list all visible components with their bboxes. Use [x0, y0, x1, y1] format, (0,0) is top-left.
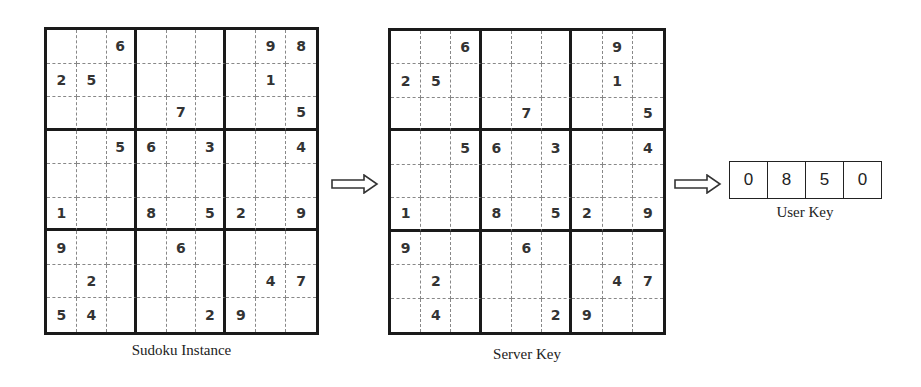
sudoku-cell: [421, 165, 451, 198]
sudoku-cell: [603, 232, 633, 265]
sudoku-cell: [196, 164, 226, 198]
sudoku-cell: 9: [47, 231, 77, 265]
sudoku-cell: 5: [421, 64, 451, 97]
sudoku-cell: [167, 30, 197, 64]
sudoku-cell: [451, 165, 481, 198]
sudoku-cell: [512, 165, 542, 198]
sudoku-cell: [421, 198, 451, 231]
sudoku-cell: 8: [286, 30, 316, 64]
sudoku-cell: 4: [603, 265, 633, 298]
sudoku-cell: [286, 231, 316, 265]
sudoku-cell: [226, 97, 256, 131]
sudoku-cell: [47, 30, 77, 64]
sudoku-cell: 2: [542, 299, 572, 332]
sudoku-cell: [256, 198, 286, 232]
sudoku-cell: 5: [542, 198, 572, 231]
sudoku-cell: 2: [196, 298, 226, 332]
sudoku-cell: 5: [77, 64, 107, 98]
sudoku-cell: 9: [603, 31, 633, 64]
sudoku-cell: [47, 164, 77, 198]
sudoku-cell: 9: [256, 30, 286, 64]
sudoku-cell: [421, 131, 451, 164]
sudoku-cell: [77, 97, 107, 131]
sudoku-cell: [226, 265, 256, 299]
sudoku-cell: 1: [47, 198, 77, 232]
sudoku-cell: 5: [47, 298, 77, 332]
sudoku-cell: [421, 31, 451, 64]
sudoku-cell: 9: [286, 198, 316, 232]
sudoku-cell: 4: [633, 131, 663, 164]
sudoku-cell: [451, 98, 481, 131]
sudoku-cell: 6: [451, 31, 481, 64]
sudoku-cell: 4: [256, 265, 286, 299]
sudoku-cell: [167, 298, 197, 332]
sudoku-cell: 6: [482, 131, 512, 164]
sudoku-cell: [451, 299, 481, 332]
sudoku-cell: [107, 265, 137, 299]
sudoku-cell: [572, 232, 602, 265]
sudoku-cell: [451, 265, 481, 298]
sudoku-cell: [482, 31, 512, 64]
user-key-caption: User Key: [729, 204, 881, 221]
sudoku-cell: 5: [451, 131, 481, 164]
sudoku-cell: [512, 198, 542, 231]
sudoku-cell: [137, 30, 167, 64]
sudoku-cell: [572, 64, 602, 97]
sudoku-cell: [107, 298, 137, 332]
sudoku-cell: [226, 164, 256, 198]
sudoku-cell: [421, 232, 451, 265]
sudoku-cell: [482, 232, 512, 265]
sudoku-cell: [633, 232, 663, 265]
sudoku-cell: [542, 31, 572, 64]
sudoku-cell: [196, 64, 226, 98]
sudoku-cell: [226, 231, 256, 265]
sudoku-cell: [451, 198, 481, 231]
sudoku-cell: [603, 131, 633, 164]
sudoku-cell: [603, 165, 633, 198]
sudoku-cell: [391, 165, 421, 198]
sudoku-cell: 9: [633, 198, 663, 231]
sudoku-cell: 6: [137, 131, 167, 165]
sudoku-cell: 9: [226, 298, 256, 332]
sudoku-cell: 4: [421, 299, 451, 332]
sudoku-cell: 3: [196, 131, 226, 165]
sudoku-cell: [391, 31, 421, 64]
sudoku-cell: [107, 231, 137, 265]
sudoku-cell: 6: [512, 232, 542, 265]
sudoku-cell: [256, 231, 286, 265]
sudoku-cell: [542, 265, 572, 298]
sudoku-cell: [107, 97, 137, 131]
sudoku-cell: 2: [421, 265, 451, 298]
sudoku-cell: [482, 165, 512, 198]
sudoku-cell: [196, 30, 226, 64]
sudoku-cell: [167, 64, 197, 98]
sudoku-cell: [542, 165, 572, 198]
sudoku-cell: 1: [603, 64, 633, 97]
sudoku-cell: [256, 298, 286, 332]
user-key-digit: 5: [806, 162, 844, 198]
sudoku-cell: [603, 299, 633, 332]
sudoku-cell: [77, 198, 107, 232]
sudoku-cell: [107, 64, 137, 98]
sudoku-cell: [633, 31, 663, 64]
sudoku-cell: 6: [167, 231, 197, 265]
sudoku-cell: [482, 98, 512, 131]
sudoku-cell: 5: [107, 131, 137, 165]
sudoku-cell: [482, 64, 512, 97]
sudoku-cell: 1: [256, 64, 286, 98]
sudoku-cell: [572, 165, 602, 198]
sudoku-cell: [391, 98, 421, 131]
sudoku-cell: [167, 131, 197, 165]
sudoku-cell: [107, 164, 137, 198]
sudoku-instance-caption: Sudoku Instance: [44, 342, 319, 359]
sudoku-cell: [226, 64, 256, 98]
user-key-digit: 0: [730, 162, 768, 198]
sudoku-cell: 9: [572, 299, 602, 332]
sudoku-cell: 1: [391, 198, 421, 231]
sudoku-cell: [542, 232, 572, 265]
user-key-digit: 8: [768, 162, 806, 198]
sudoku-cell: [137, 265, 167, 299]
sudoku-cell: [47, 265, 77, 299]
sudoku-cell: [391, 131, 421, 164]
right-arrow-icon: [673, 174, 723, 194]
